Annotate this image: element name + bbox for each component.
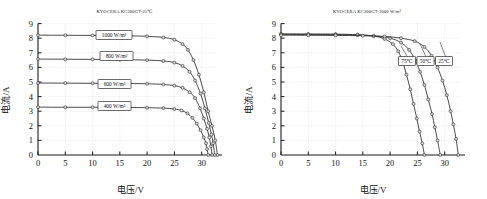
- series-label: 50℃: [420, 58, 431, 64]
- data-point: [146, 106, 149, 109]
- x-tick-label: 10: [331, 158, 340, 168]
- data-point: [199, 107, 202, 110]
- data-point: [37, 106, 40, 109]
- data-point: [457, 154, 460, 157]
- data-point: [207, 110, 210, 113]
- y-tick-label: 2: [29, 121, 33, 131]
- x-tick-label: 20: [143, 158, 152, 168]
- x-axis-label-left: 电压/V: [0, 183, 243, 196]
- data-point: [423, 45, 426, 48]
- data-point: [415, 117, 418, 120]
- data-point: [452, 123, 455, 126]
- data-point: [207, 121, 210, 124]
- y-tick-label: 2: [272, 121, 276, 131]
- x-tick-label: 30: [440, 158, 449, 168]
- series-callouts-left: 1000 W/m² 800 W/m² 600 W/m² 400 W/m²: [96, 31, 133, 111]
- data-point: [405, 73, 408, 76]
- data-point: [208, 136, 211, 139]
- data-point: [187, 48, 190, 51]
- y-tick-label: 5: [272, 77, 276, 87]
- data-point: [37, 82, 40, 85]
- y-tick-label: 7: [272, 48, 276, 58]
- y-axis-label-right: 电流/A: [242, 86, 255, 113]
- series-label: 25℃: [438, 58, 449, 64]
- data-point: [195, 122, 198, 125]
- curve-400 W/m²: [38, 107, 208, 155]
- data-point: [383, 35, 386, 38]
- data-point: [202, 91, 205, 94]
- data-point: [334, 34, 337, 37]
- data-point: [64, 106, 67, 109]
- data-point: [91, 34, 94, 37]
- data-point: [162, 36, 165, 39]
- axes-right: [281, 24, 465, 155]
- x-tick-label: 15: [116, 158, 125, 168]
- data-point: [431, 113, 434, 116]
- data-point: [181, 43, 184, 46]
- data-point: [400, 37, 403, 40]
- data-point: [173, 61, 176, 64]
- y-tick-label: 1: [29, 135, 33, 145]
- data-point: [37, 34, 40, 37]
- data-point: [188, 70, 191, 73]
- data-point: [211, 154, 214, 157]
- plot-area-left: 9 8 7 6 5 4 3 2 1 0 0 5: [0, 0, 243, 199]
- data-point: [408, 48, 411, 51]
- data-point: [445, 94, 448, 97]
- x-tick-label: 5: [306, 158, 310, 168]
- data-point: [214, 139, 217, 142]
- data-point: [173, 108, 176, 111]
- data-point: [186, 112, 189, 115]
- data-point: [173, 84, 176, 87]
- data-point: [146, 35, 149, 38]
- data-point: [212, 142, 215, 145]
- data-point: [203, 107, 206, 110]
- y-tick-label: 4: [29, 92, 34, 102]
- y-ticks-left: 9 8 7 6 5 4 3 2 1 0: [29, 19, 42, 160]
- data-point: [210, 133, 213, 136]
- data-point: [180, 109, 183, 112]
- data-point: [421, 142, 424, 145]
- data-point: [207, 154, 210, 157]
- x-tick-label: 25: [170, 158, 179, 168]
- data-point: [436, 139, 439, 142]
- data-point: [64, 82, 67, 85]
- y-tick-label: 0: [272, 150, 276, 160]
- y-tick-label: 0: [29, 150, 33, 160]
- x-tick-label: 25: [413, 158, 422, 168]
- x-ticks-left: 0 5 10 15 20 25 30: [36, 152, 206, 169]
- data-point: [449, 110, 452, 113]
- curve-25℃: [281, 35, 458, 155]
- data-point: [307, 34, 310, 37]
- data-point: [280, 34, 283, 37]
- x-tick-label: 0: [36, 158, 40, 168]
- data-point: [146, 59, 149, 62]
- axes-left: [38, 24, 222, 155]
- data-point: [199, 92, 202, 95]
- y-tick-label: 9: [272, 19, 276, 29]
- data-point: [173, 38, 176, 41]
- data-point: [146, 82, 149, 85]
- y-tick-label: 6: [272, 62, 276, 72]
- data-point: [361, 34, 364, 37]
- data-point: [211, 124, 214, 127]
- data-point: [181, 86, 184, 89]
- data-point: [419, 70, 422, 73]
- chart-page: KYOCERA KC200GT-25℃: [0, 0, 487, 199]
- series-callout-400: 400 W/m²: [98, 102, 131, 111]
- data-point: [391, 43, 394, 46]
- y-ticks-right: 9 8 7 6 5 4 3 2 1 0: [272, 19, 285, 160]
- series-label: 400 W/m²: [104, 103, 126, 109]
- data-point: [409, 88, 412, 91]
- x-tick-label: 20: [386, 158, 395, 168]
- data-point: [91, 82, 94, 85]
- data-point: [162, 83, 165, 86]
- series-label: 75℃: [401, 58, 412, 64]
- data-point: [423, 154, 426, 157]
- y-tick-label: 6: [29, 62, 33, 72]
- y-tick-label: 3: [272, 106, 276, 116]
- data-point: [205, 142, 208, 145]
- y-tick-label: 5: [29, 77, 33, 87]
- x-axis-label-right: 电压/V: [243, 183, 487, 196]
- series-label: 600 W/m²: [104, 81, 126, 87]
